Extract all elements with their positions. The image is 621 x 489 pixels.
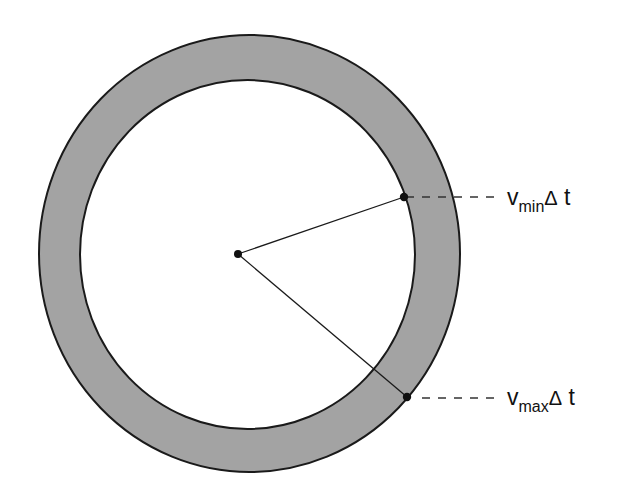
- vmin-label-variable: t: [558, 184, 571, 210]
- vmax-label-base: v: [507, 384, 519, 410]
- delta-symbol: Δ: [544, 187, 557, 209]
- delta-symbol: Δ: [549, 387, 562, 409]
- vmin-label-base: v: [507, 184, 519, 210]
- inner-disc: [80, 80, 415, 429]
- vmin-point: [400, 193, 408, 201]
- center-point: [234, 250, 242, 258]
- annulus-diagram: [0, 0, 621, 489]
- vmax-label-subscript: max: [519, 398, 549, 415]
- vmin-label: vminΔ t: [507, 186, 570, 209]
- vmax-label-variable: t: [562, 384, 575, 410]
- vmax-point: [403, 393, 411, 401]
- vmin-label-subscript: min: [519, 198, 545, 215]
- vmax-label: vmaxΔ t: [507, 386, 575, 409]
